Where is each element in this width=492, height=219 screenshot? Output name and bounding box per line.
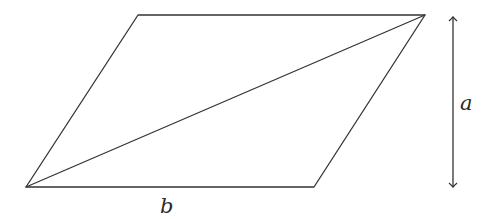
base-label: b	[160, 194, 173, 218]
diagonal-line	[26, 15, 425, 187]
height-label: a	[460, 91, 473, 115]
parallelogram-diagram: a b	[0, 0, 492, 219]
